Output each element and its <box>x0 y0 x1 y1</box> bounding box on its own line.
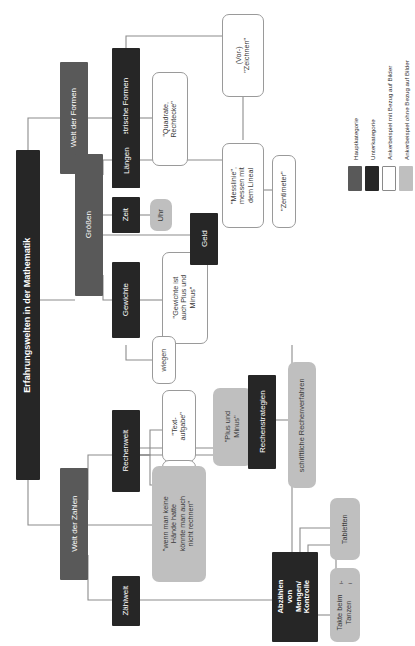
node-takte-tanzen-label: Takte beim Tanzen <box>336 595 353 631</box>
node-root-label: Erfahrungswelten in der Mathematik <box>23 237 33 392</box>
node-tabletten-label: Tabletten <box>341 514 350 544</box>
node-rechenstrategien-label: Rechenstrategien <box>257 391 266 454</box>
node-groessen[interactable]: Größen <box>75 154 103 296</box>
legend: Hauptkategorie Unterkategorie Ankerbeisp… <box>348 50 412 230</box>
node-welt-der-zahlen-label: Welt der Zahlen <box>69 496 78 552</box>
node-gewichte-label: Gewichte <box>121 283 130 316</box>
node-tabletten[interactable]: Tabletten <box>330 498 360 560</box>
node-geld[interactable]: Geld <box>190 213 218 265</box>
legend-item-ankerbeispiel-mit-bezug: Ankerbeispiel mit Bezug auf Bilder <box>382 50 396 160</box>
node-messlinie[interactable]: "Messlinie", messen mit dem Lineal <box>222 143 264 228</box>
legend-swatch-ankerbeispiel-mit-bezug <box>382 166 396 191</box>
node-wiegen-label: wiegen <box>160 349 168 372</box>
node-rechenwelt-label: Rechenwelt <box>121 430 130 472</box>
node-quadrate-rechtecke-label: "Quadrate, Rechtecke" <box>162 101 179 138</box>
node-textaufgabe-label: "Text- aufgabe" <box>171 412 188 441</box>
node-abzaehlen[interactable]: Abzählen von Mengen/ Kontrolle <box>272 552 318 642</box>
node-welt-der-formen-label: Welt der Formen <box>69 88 78 147</box>
node-zentimeter[interactable]: "Zentimeter" <box>272 155 296 228</box>
node-messlinie-label: "Messlinie", messen mit dem Lineal <box>230 167 255 204</box>
legend-label-ankerbeispiel-mit-bezug: Ankerbeispiel mit Bezug auf Bilder <box>386 66 393 160</box>
node-schriftliche-rechenverfahren-label: schriftliche Rechenverfahren <box>298 378 307 472</box>
legend-item-ankerbeispiel-ohne-bezug: Ankerbeispiel ohne Bezug auf Bilder <box>399 50 413 160</box>
node-zeit[interactable]: Zeit <box>112 197 140 233</box>
node-wiegen[interactable]: wiegen <box>152 336 176 384</box>
node-schriftliche-rechenverfahren[interactable]: schriftliche Rechenverfahren <box>288 362 316 488</box>
diagram-canvas: Erfahrungswelten in der Mathematik Welt … <box>0 0 415 646</box>
legend-swatch-ankerbeispiel-ohne-bezug <box>399 166 413 191</box>
legend-label-hauptkategorie: Hauptkategorie <box>352 118 359 160</box>
node-laengen-label: Längen <box>121 148 130 175</box>
node-rechenstrategien[interactable]: Rechenstrategien <box>248 375 276 469</box>
node-gewichte-plus-minus-label: "Gewichte ist auch Plus und Minus" <box>172 275 197 321</box>
node-uhr[interactable]: Uhr <box>150 199 172 231</box>
node-haende-rechnen-label: "wenn man keine Hände hatte könnte man a… <box>162 496 195 551</box>
node-abzaehlen-label: Abzählen von Mengen/ Kontrolle <box>277 580 312 614</box>
node-rechenwelt[interactable]: Rechenwelt <box>112 410 140 492</box>
node-plus-und-minus-label: "Plus und Minus" <box>224 411 241 442</box>
node-zentimeter-label: "Zentimeter" <box>280 172 288 211</box>
node-quadrate-rechtecke[interactable]: "Quadrate, Rechtecke" <box>152 72 188 166</box>
node-welt-der-zahlen[interactable]: Welt der Zahlen <box>60 468 88 580</box>
node-zaehlwelt[interactable]: Zählwelt <box>112 576 140 626</box>
node-haende-rechnen[interactable]: "wenn man keine Hände hatte könnte man a… <box>152 466 206 582</box>
node-plus-und-minus[interactable]: "Plus und Minus" <box>213 388 252 466</box>
node-gewichte-plus-minus[interactable]: "Gewichte ist auch Plus und Minus" <box>162 252 208 344</box>
node-takte-tanzen[interactable]: Takte beim Tanzen <box>330 584 360 642</box>
node-groessen-label: Größen <box>84 211 93 238</box>
node-uhr-label: Uhr <box>157 209 166 221</box>
node-textaufgabe[interactable]: "Text- aufgabe" <box>162 390 196 462</box>
node-root[interactable]: Erfahrungswelten in der Mathematik <box>16 150 40 480</box>
legend-labels: Hauptkategorie Unterkategorie Ankerbeisp… <box>348 50 413 160</box>
legend-item-hauptkategorie: Hauptkategorie <box>348 50 362 160</box>
legend-swatch-unterkategorie <box>365 166 379 191</box>
node-geld-label: Geld <box>199 231 208 248</box>
legend-label-unterkategorie: Unterkategorie <box>369 119 376 160</box>
node-laengen[interactable]: Längen <box>112 134 140 188</box>
node-gewichte[interactable]: Gewichte <box>112 262 140 338</box>
node-vor-zeichnen[interactable]: (Vor-) "Zeichnen" <box>222 14 264 97</box>
legend-swatch-hauptkategorie <box>348 166 362 191</box>
legend-label-ankerbeispiel-ohne-bezug: Ankerbeispiel ohne Bezug auf Bilder <box>403 60 410 160</box>
node-zaehlwelt-label: Zählwelt <box>121 586 130 616</box>
node-zeit-label: Zeit <box>121 208 130 221</box>
legend-swatches <box>348 166 413 191</box>
legend-item-unterkategorie: Unterkategorie <box>365 50 379 160</box>
node-vor-zeichnen-label: (Vor-) "Zeichnen" <box>235 38 252 73</box>
